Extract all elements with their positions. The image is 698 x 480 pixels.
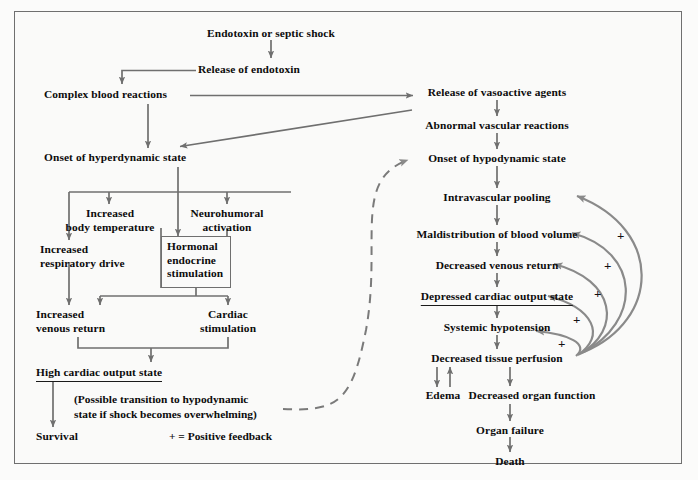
node-decreased-tissue-perfusion: Decreased tissue perfusion <box>431 352 562 366</box>
node-edema: Edema <box>426 389 461 403</box>
node-increased-respiratory-drive: Increased respiratory drive <box>40 243 125 270</box>
node-cardiac-stimulation: Cardiac stimulation <box>200 308 256 335</box>
node-high-cardiac-output-state: High cardiac output state <box>36 366 162 382</box>
node-depressed-cardiac-output-state: Depressed cardiac output state <box>421 290 573 306</box>
node-decreased-venous-return: Decreased venous return <box>436 259 559 273</box>
node-decreased-organ-function: Decreased organ function <box>469 389 596 403</box>
node-release-of-endotoxin: Release of endotoxin <box>198 63 300 77</box>
arrow-vasoactive-to-hyperdynamic <box>180 110 412 147</box>
line-merge-to-highoutput <box>78 337 228 348</box>
node-systemic-hypotension: Systemic hypotension <box>444 321 551 335</box>
dashed-transition-curve <box>283 160 408 409</box>
legend-positive-feedback: + = Positive feedback <box>169 430 272 442</box>
arrow-release-to-complexblood <box>122 71 196 85</box>
node-survival: Survival <box>36 430 78 444</box>
node-increased-venous-return: Increased venous return <box>36 308 105 335</box>
node-organ-failure: Organ failure <box>476 424 544 438</box>
transition-note: (Possible transition to hypodynamic stat… <box>74 392 257 422</box>
node-intravascular-pooling: Intravascular pooling <box>443 191 550 205</box>
plus-sign-pooling: + <box>617 228 624 244</box>
node-death: Death <box>495 455 525 469</box>
node-onset-of-hyperdynamic-state: Onset of hyperdynamic state <box>44 151 186 165</box>
plus-sign-hypotension: + <box>558 336 565 352</box>
node-release-of-vasoactive-agents: Release of vasoactive agents <box>428 86 567 100</box>
plus-sign-venous: + <box>594 286 601 302</box>
plus-sign-maldistribution: + <box>604 258 611 274</box>
node-abnormal-vascular-reactions: Abnormal vascular reactions <box>425 119 568 133</box>
node-complex-blood-reactions: Complex blood reactions <box>44 88 167 102</box>
plus-sign-depressed: + <box>573 312 580 328</box>
feedback-arc-to-pooling <box>577 196 642 352</box>
node-endotoxin-or-septic-shock: Endotoxin or septic shock <box>207 27 335 41</box>
node-hormonal-endocrine-stimulation: Hormonal endocrine stimulation <box>167 240 223 281</box>
node-onset-of-hypodynamic-state: Onset of hypodynamic state <box>428 152 566 166</box>
node-increased-body-temperature: Increased body temperature <box>65 207 154 234</box>
node-neurohumoral-activation: Neurohumoral activation <box>190 207 263 234</box>
diagram-page: Endotoxin or septic shock Release of end… <box>0 0 698 480</box>
node-maldistribution-of-blood-volume: Maldistribution of blood volume <box>416 228 577 242</box>
